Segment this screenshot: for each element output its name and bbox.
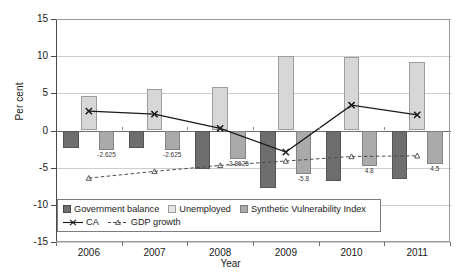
legend-item-government-balance: Government balance: [63, 203, 159, 215]
x-tick-mark-4: [319, 242, 320, 246]
x-minor-tick-5: [384, 127, 385, 130]
legend-item-unemployed: Unemployed: [168, 203, 231, 215]
legend-label-svi: Synthetic Vulnerability Index: [251, 203, 366, 215]
legend-item-gdp-growth: GDP growth: [108, 216, 181, 228]
x-minor-tick-4: [319, 127, 320, 130]
legend-label-government-balance: Government balance: [74, 203, 159, 215]
y-tick-label-0: 0: [18, 125, 48, 136]
y-tick-label-15: 15: [18, 13, 48, 24]
y-tick-label--10: -10: [18, 199, 48, 210]
x-tick-mark-2: [187, 242, 188, 246]
gridline--15: [57, 242, 451, 243]
y-tick-label-5: 5: [18, 87, 48, 98]
x-tick-mark-3: [253, 242, 254, 246]
legend-label-gdp-growth: GDP growth: [131, 216, 181, 228]
x-minor-tick-1: [122, 127, 123, 130]
marker-gdp-growth-2011: [415, 153, 420, 158]
legend-swatch-unemployed-icon: [168, 205, 176, 213]
line-gdp-growth: [89, 156, 417, 178]
x-tick-label-2011: 2011: [387, 247, 447, 258]
legend-item-svi: Synthetic Vulnerability Index: [240, 203, 366, 215]
legend-swatch-gov-icon: [63, 205, 71, 213]
x-tick-label-2008: 2008: [190, 247, 250, 258]
chart-container: Per cent 151050-5-10-15 -2.625-2.625-3.8…: [0, 0, 461, 276]
legend-label-ca: CA: [86, 216, 99, 228]
legend-item-ca: CA: [63, 216, 99, 228]
x-tick-mark-5: [384, 242, 385, 246]
y-tick-label--15: -15: [18, 236, 48, 247]
legend-row-lines: CA GDP growth: [63, 216, 375, 228]
x-tick-mark-0: [56, 242, 57, 246]
x-tick-label-2010: 2010: [322, 247, 382, 258]
legend-line-ca-icon: [63, 218, 83, 227]
marker-ca-2009: [283, 149, 289, 155]
y-tick-label--5: -5: [18, 162, 48, 173]
x-tick-label-2007: 2007: [125, 247, 185, 258]
x-minor-tick-3: [253, 127, 254, 130]
legend-label-unemployed: Unemployed: [179, 203, 231, 215]
y-tick-label-10: 10: [18, 50, 48, 61]
x-minor-tick-2: [187, 127, 188, 130]
legend-swatch-svi-icon: [240, 205, 248, 213]
x-tick-mark-6: [450, 242, 451, 246]
x-tick-mark-1: [122, 242, 123, 246]
x-tick-label-2006: 2006: [59, 247, 119, 258]
x-axis-title: Year: [0, 258, 461, 269]
legend-line-gdp-icon: [108, 218, 128, 227]
chart-legend: Government balance Unemployed Synthetic …: [57, 199, 381, 232]
x-tick-label-2009: 2009: [256, 247, 316, 258]
legend-row-bars: Government balance Unemployed Synthetic …: [63, 203, 375, 215]
